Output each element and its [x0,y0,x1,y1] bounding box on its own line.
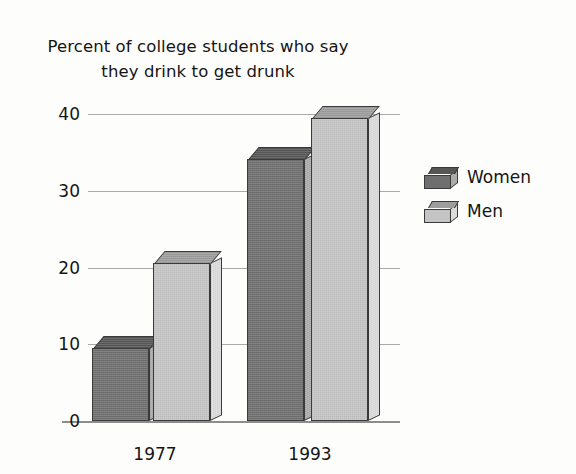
y-tick-label-10: 10 [24,336,80,353]
bar-men-1993-side [368,112,380,421]
bar-men-1977-front [153,263,210,421]
bar-men-1977 [153,263,210,421]
y-tick-label-0: 0 [24,413,80,430]
y-tick-40: 40 [16,106,80,123]
chart-legend: Women Men [424,160,569,228]
bar-women-1977-front [92,348,149,421]
legend-label-women: Women [467,167,531,187]
y-tick-20: 20 [16,260,80,277]
y-tick-0: 0 [16,413,80,430]
x-axis-baseline [62,421,400,423]
plot-area: 40 30 20 10 0 [0,0,576,474]
x-tick-label-1977: 1977 [95,444,215,464]
y-tick-10: 10 [16,336,80,353]
legend-label-men: Men [467,201,503,221]
bar-men-1977-side [210,257,222,421]
x-tick-label-1993: 1993 [250,444,370,464]
bar-women-1977 [92,348,149,421]
legend-swatch-men-icon [424,199,458,223]
bar-women-1993 [247,159,304,421]
bar-men-1993 [311,118,368,421]
legend-item-men: Men [424,194,569,228]
legend-swatch-women-icon [424,165,458,189]
legend-item-women: Women [424,160,569,194]
bar-chart-figure: Percent of college students who say they… [0,0,576,474]
y-tick-label-40: 40 [24,106,80,123]
y-tick-30: 30 [16,183,80,200]
bar-men-1993-front [311,118,368,421]
y-tick-label-20: 20 [24,260,80,277]
y-tick-label-30: 30 [24,183,80,200]
bar-women-1993-front [247,159,304,421]
